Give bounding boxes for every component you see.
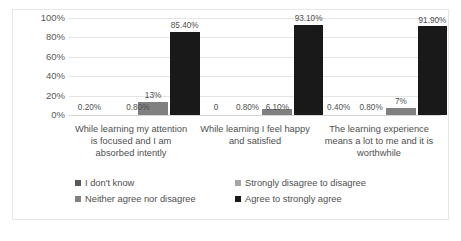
data-label-g3-s4: 91.90% [419,17,447,25]
legend-label: Neither agree nor disagree [85,194,196,204]
data-label-g3-s2: 0.80% [359,104,382,112]
data-label-g3-s1: 0.40% [327,104,350,112]
y-axis-tick: 40% [21,71,65,81]
y-axis-tick: 0% [21,110,65,120]
bar-g3-s4 [418,26,448,115]
plot-area: 100% 80% 60% 40% 20% 0% [13,10,450,115]
data-label-g1-s1: 0.20% [78,104,101,112]
x-axis-category-labels: While learning my attention is focused a… [69,124,441,170]
legend-swatch-icon [235,180,241,186]
y-axis-tick: 60% [21,52,65,62]
x-axis-label-2: While learning I feel happy and satisfie… [193,124,317,170]
x-axis-label-1: While learning my attention is focused a… [69,124,193,170]
data-label-g3-s3: 7% [395,98,407,106]
data-label-g2-s2: 0.80% [236,104,259,112]
y-axis-tick: 20% [21,91,65,101]
axis-baseline [69,115,441,116]
legend-item-strongly-disagree-to-disagree[interactable]: Strongly disagree to disagree [235,178,366,188]
data-label-g1-s3: 13% [145,92,161,100]
legend-item-agree-to-strongly-agree[interactable]: Agree to strongly agree [235,194,342,204]
legend-row: I don't know Strongly disagree to disagr… [75,178,405,188]
legend-label: Strongly disagree to disagree [245,178,366,188]
bar-g1-s4 [170,32,200,115]
y-axis-tick: 80% [21,33,65,43]
legend-row: Neither agree nor disagree Agree to stro… [75,194,405,204]
bar-g2-s4 [294,25,324,115]
legend-swatch-icon [75,196,81,202]
legend-label: I don't know [85,178,134,188]
y-axis-tick: 100% [21,13,65,23]
chart-container: 100% 80% 60% 40% 20% 0% [12,9,449,220]
data-label-g2-s3: 6.10% [266,104,289,112]
legend-label: Agree to strongly agree [245,194,342,204]
legend-item-neither-agree-nor-disagree[interactable]: Neither agree nor disagree [75,194,235,204]
data-label-g2-s1: 0 [214,104,219,112]
x-axis-label-3: The learning experience means a lot to m… [317,124,441,170]
data-label-g2-s4: 93.10% [295,15,323,23]
legend: I don't know Strongly disagree to disagr… [75,178,405,210]
legend-item-i-dont-know[interactable]: I don't know [75,178,235,188]
legend-swatch-icon [75,180,81,186]
data-label-g1-s2: 0.80% [126,104,149,112]
data-label-g1-s4: 85.40% [171,22,199,30]
bar-g3-s3 [386,108,416,115]
legend-swatch-icon [235,196,241,202]
y-axis: 100% 80% 60% 40% 20% 0% [19,18,65,115]
bars-layer: 0.20% 0.80% 13% 85.40% 0 0.80% 6.10% 93.… [69,18,441,115]
